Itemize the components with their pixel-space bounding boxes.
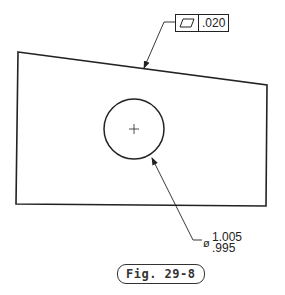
center-mark-icon <box>129 124 139 134</box>
figure-caption: Fig. 29-8 <box>117 264 205 284</box>
feature-control-frame: .020 <box>175 14 229 32</box>
part-outline <box>16 52 267 206</box>
drawing-canvas <box>0 0 285 295</box>
diameter-symbol: ø <box>203 237 210 249</box>
diameter-leader <box>152 158 202 240</box>
flatness-leader <box>144 22 175 68</box>
flatness-icon <box>176 15 199 31</box>
lower-limit: .995 <box>212 241 235 255</box>
flatness-tolerance: .020 <box>199 15 228 31</box>
